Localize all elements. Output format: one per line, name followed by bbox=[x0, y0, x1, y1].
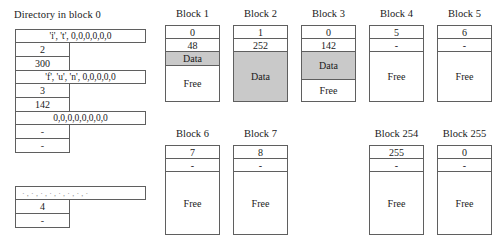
block-size: - bbox=[234, 159, 287, 172]
directory-entry: 0,0,0,0,0,0,0,0-- bbox=[15, 111, 146, 153]
directory-entry-name-row: 0,0,0,0,0,0,0,0 bbox=[15, 111, 146, 125]
block-box: 7-Free bbox=[165, 145, 220, 235]
block-free-segment: Free bbox=[438, 52, 491, 101]
block-next-pointer: 8 bbox=[234, 146, 287, 159]
block-label: Block 2 bbox=[244, 8, 277, 19]
directory-panel: Directory in block 0 'i', 't', 0,0,0,0,0… bbox=[0, 0, 160, 246]
block-label: Block 254 bbox=[375, 128, 418, 139]
directory-entry: 'i', 't', 0,0,0,0,0,02300 bbox=[15, 29, 146, 71]
directory-entry-name: 'f', 'u', 'n', 0,0,0,0,0 bbox=[45, 72, 115, 82]
directory-entry-name: 'i', 't', 0,0,0,0,0,0 bbox=[49, 31, 111, 41]
directory-entry-start-block: 2 bbox=[15, 42, 70, 57]
block-data-segment: Data bbox=[166, 52, 219, 66]
block-label: Block 6 bbox=[176, 128, 209, 139]
directory-entry-start-block: - bbox=[15, 124, 70, 139]
block-size: 252 bbox=[234, 39, 287, 52]
block-label: Block 5 bbox=[448, 8, 481, 19]
block-free-segment: Free bbox=[166, 66, 219, 101]
directory-entry: ·,·,·,·,·,·,·,·4- bbox=[15, 186, 146, 228]
directory-entry-size: 142 bbox=[15, 97, 70, 112]
blocks-panel: Block 1048DataFreeBlock 21252DataBlock 3… bbox=[160, 0, 464, 246]
block-box: 1252Data bbox=[233, 25, 288, 102]
block-size: - bbox=[370, 39, 423, 52]
block-size: 48 bbox=[166, 39, 219, 52]
block-next-pointer: 5 bbox=[370, 26, 423, 39]
block-box: 6-Free bbox=[437, 25, 492, 102]
block-box: 255-Free bbox=[369, 145, 424, 235]
directory-entry-name: ·,·,·,·,·,·,·,· bbox=[16, 189, 145, 198]
block-label: Block 4 bbox=[380, 8, 413, 19]
block-label: Block 1 bbox=[176, 8, 209, 19]
block-next-pointer: 255 bbox=[370, 146, 423, 159]
block-next-pointer: 1 bbox=[234, 26, 287, 39]
block-box: 048DataFree bbox=[165, 25, 220, 102]
directory-entry-name: 0,0,0,0,0,0,0,0 bbox=[53, 113, 108, 123]
block-next-pointer: 0 bbox=[438, 146, 491, 159]
block-size: - bbox=[166, 159, 219, 172]
block-label: Block 255 bbox=[443, 128, 486, 139]
directory-entry-name-row: ·,·,·,·,·,·,·,· bbox=[15, 186, 146, 200]
directory-entry-start-block: 4 bbox=[15, 199, 70, 214]
block-box: 8-Free bbox=[233, 145, 288, 235]
block-box: 5-Free bbox=[369, 25, 424, 102]
directory-table: 'i', 't', 0,0,0,0,0,02300'f', 'u', 'n', … bbox=[15, 29, 146, 152]
block-next-pointer: 7 bbox=[166, 146, 219, 159]
block-free-segment: Free bbox=[438, 172, 491, 234]
directory-entry-size: - bbox=[15, 138, 70, 153]
directory-entry-size: 300 bbox=[15, 56, 70, 71]
directory-entry-start-block: 3 bbox=[15, 83, 70, 98]
block-next-pointer: 6 bbox=[438, 26, 491, 39]
directory-entry-name-row: 'i', 't', 0,0,0,0,0,0 bbox=[15, 29, 146, 43]
block-size: 142 bbox=[302, 39, 355, 52]
directory-title: Directory in block 0 bbox=[14, 9, 101, 20]
directory-entry-size: - bbox=[15, 213, 70, 228]
directory-entry-name-row: 'f', 'u', 'n', 0,0,0,0,0 bbox=[15, 70, 146, 84]
directory-entry: 'f', 'u', 'n', 0,0,0,0,03142 bbox=[15, 70, 146, 112]
directory-table-continued: ·,·,·,·,·,·,·,·4- bbox=[15, 186, 146, 227]
block-data-segment: Data bbox=[234, 52, 287, 101]
block-data-segment: Data bbox=[302, 52, 355, 80]
block-next-pointer: 0 bbox=[166, 26, 219, 39]
block-size: - bbox=[438, 39, 491, 52]
block-free-segment: Free bbox=[370, 172, 423, 234]
block-free-segment: Free bbox=[370, 52, 423, 101]
block-free-segment: Free bbox=[234, 172, 287, 234]
block-box: 0-Free bbox=[437, 145, 492, 235]
block-label: Block 3 bbox=[312, 8, 345, 19]
block-box: 0142DataFree bbox=[301, 25, 356, 102]
block-size: - bbox=[438, 159, 491, 172]
block-size: - bbox=[370, 159, 423, 172]
block-next-pointer: 0 bbox=[302, 26, 355, 39]
block-free-segment: Free bbox=[302, 80, 355, 101]
block-label: Block 7 bbox=[244, 128, 277, 139]
block-free-segment: Free bbox=[166, 172, 219, 234]
